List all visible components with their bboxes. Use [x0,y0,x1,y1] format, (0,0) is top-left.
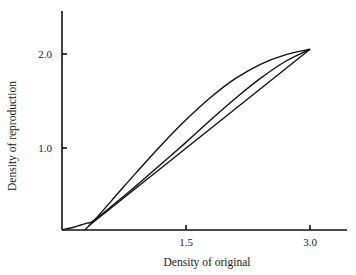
tone-reproduction-chart: 1.53.0 1.02.0 Density of original Densit… [0,0,356,275]
x-axis-label: Density of original [164,256,251,269]
y-axis-label: Density of reproduction [6,81,19,191]
plot-series [62,49,310,230]
x-axis-ticks: 1.53.0 [179,225,317,248]
series-straight-line [89,49,311,226]
y-tick-label: 2.0 [38,48,52,60]
x-tick-label: 3.0 [303,236,317,248]
y-tick-label: 1.0 [38,142,52,154]
series-toe-curve [62,49,310,230]
x-tick-label: 1.5 [179,236,193,248]
